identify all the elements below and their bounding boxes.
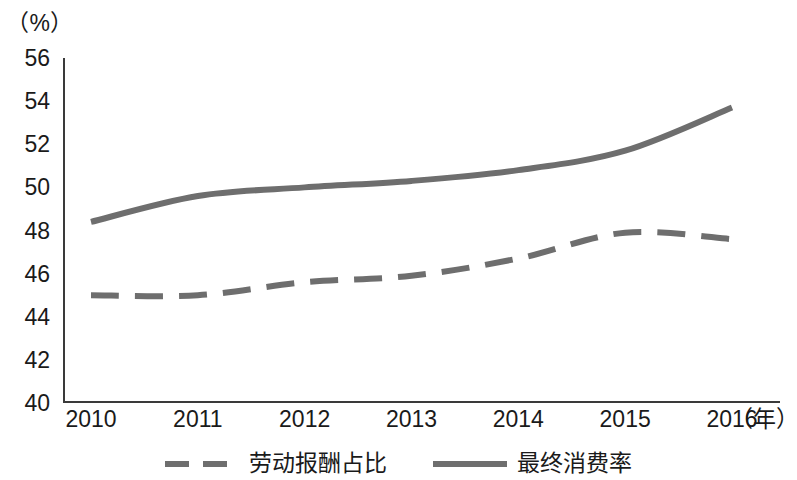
- chart-legend: 劳动报酬占比最终消费率: [0, 452, 797, 475]
- y-axis-tick: 40: [24, 392, 50, 415]
- legend-dashed-line-icon: [165, 461, 239, 467]
- x-axis-tick-labels: 2010201120122013201420152016: [63, 408, 780, 442]
- x-axis-tick: 2010: [65, 408, 116, 431]
- y-axis-tick: 42: [24, 348, 50, 371]
- x-axis-tick: 2015: [600, 408, 651, 431]
- plot-area: [63, 58, 780, 403]
- legend-item[interactable]: 最终消费率: [433, 452, 632, 475]
- x-axis-tick: 2012: [279, 408, 330, 431]
- series-line-consumption-rate: [91, 108, 732, 222]
- legend-item[interactable]: 劳动报酬占比: [165, 452, 387, 475]
- x-axis-tick: 2013: [386, 408, 437, 431]
- y-axis-tick: 44: [24, 305, 50, 328]
- y-axis-unit-label: （%）: [6, 4, 74, 38]
- y-axis-tick-labels: 565452504846444240: [0, 58, 58, 403]
- y-axis-tick: 52: [24, 133, 50, 156]
- y-axis-tick: 46: [24, 262, 50, 285]
- y-axis-tick: 54: [24, 90, 50, 113]
- x-axis-tick: 2014: [493, 408, 544, 431]
- line-chart: （%） 565452504846444240 20102011201220132…: [0, 0, 797, 480]
- legend-solid-line-icon: [433, 461, 507, 467]
- legend-label: 劳动报酬占比: [249, 452, 387, 475]
- series-layer: [63, 58, 780, 403]
- y-axis-tick: 56: [24, 47, 50, 70]
- y-axis-tick: 48: [24, 219, 50, 242]
- series-line-labor-share: [91, 232, 732, 296]
- x-axis-tick: 2011: [173, 408, 222, 431]
- x-axis-unit-label: （年）: [730, 408, 797, 431]
- legend-label: 最终消费率: [517, 452, 632, 475]
- y-axis-tick: 50: [24, 176, 50, 199]
